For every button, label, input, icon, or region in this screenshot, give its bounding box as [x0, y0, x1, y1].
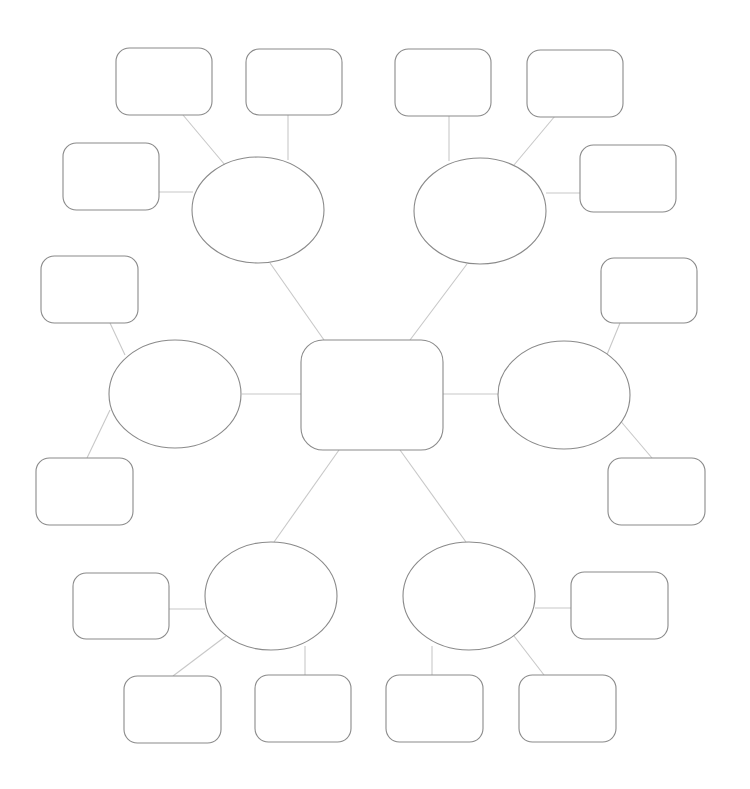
- detail-box-bl-2[interactable]: [124, 676, 221, 743]
- detail-box-br-3[interactable]: [519, 675, 616, 742]
- subtopic-ellipse-right[interactable]: [498, 341, 630, 449]
- connector-line: [183, 115, 225, 165]
- detail-box-br-2[interactable]: [386, 675, 483, 742]
- detail-box-tr-3[interactable]: [580, 145, 676, 212]
- detail-box-tl-2[interactable]: [246, 49, 342, 115]
- subtopic-ellipse-bottom-right[interactable]: [403, 542, 535, 650]
- detail-box-r-2[interactable]: [608, 458, 705, 525]
- subtopic-ellipse-top-right[interactable]: [414, 158, 546, 264]
- detail-box-tl-3[interactable]: [63, 143, 159, 210]
- connector-line: [400, 450, 466, 542]
- detail-box-tr-1[interactable]: [395, 49, 491, 116]
- connector-line: [514, 116, 555, 165]
- subtopic-ellipse-top-left[interactable]: [192, 157, 324, 263]
- detail-box-bl-1[interactable]: [73, 573, 169, 639]
- diagram-shapes: [36, 48, 705, 743]
- connector-line: [514, 636, 544, 675]
- central-topic-box[interactable]: [301, 340, 443, 450]
- connector-line: [173, 636, 226, 676]
- subtopic-ellipse-left[interactable]: [109, 340, 241, 448]
- mind-map-canvas: [0, 0, 750, 789]
- connector-line: [618, 418, 652, 458]
- connector-line: [606, 323, 620, 357]
- connector-line: [274, 450, 339, 542]
- connector-line: [270, 263, 324, 340]
- detail-box-l-1[interactable]: [41, 256, 138, 323]
- detail-box-l-2[interactable]: [36, 458, 133, 525]
- connector-line: [110, 323, 125, 355]
- detail-box-tr-2[interactable]: [527, 50, 623, 117]
- detail-box-r-1[interactable]: [601, 258, 697, 323]
- detail-box-br-1[interactable]: [571, 572, 668, 639]
- detail-box-tl-1[interactable]: [116, 48, 212, 115]
- connector-line: [410, 264, 467, 340]
- subtopic-ellipse-bottom-left[interactable]: [205, 542, 337, 650]
- connector-line: [87, 410, 110, 458]
- detail-box-bl-3[interactable]: [255, 675, 351, 742]
